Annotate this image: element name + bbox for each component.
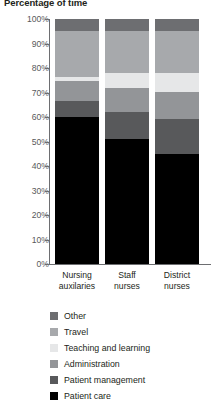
y-axis-tick-mark [45, 166, 50, 167]
plot-area: 100%90%80%70%60%50%40%30%20%10%0% Nursin… [0, 0, 216, 300]
bar-segment[interactable] [155, 119, 199, 153]
bar-segment[interactable] [105, 139, 149, 264]
legend-item-label: Patient care [64, 392, 111, 401]
y-axis-tick-mark [45, 68, 50, 69]
y-axis-tick-label: 10% [9, 235, 49, 244]
legend-swatch-icon [50, 328, 58, 336]
y-axis-tick-label: 20% [9, 211, 49, 220]
y-axis-tick-label: 90% [9, 39, 49, 48]
legend-swatch-icon [50, 360, 58, 368]
y-axis-tick-mark [45, 264, 50, 265]
bar-segment[interactable] [155, 19, 199, 31]
legend-item[interactable]: Administration [50, 356, 216, 372]
bar-segment[interactable] [155, 92, 199, 119]
legend-item[interactable]: Teaching and learning [50, 340, 216, 356]
legend-swatch-icon [50, 344, 58, 352]
legend-item[interactable]: Patient care [50, 388, 216, 404]
legend-swatch-icon [50, 376, 58, 384]
legend-swatch-icon [50, 312, 58, 320]
bar-stack [155, 19, 199, 264]
y-axis-tick-label: 80% [9, 64, 49, 73]
bar-segment[interactable] [105, 31, 149, 73]
bar-segment[interactable] [55, 19, 99, 31]
legend-item-label: Administration [64, 360, 120, 369]
legend-swatch-icon [50, 392, 58, 400]
y-axis-tick-mark [45, 215, 50, 216]
legend-item[interactable]: Other [50, 308, 216, 324]
bar-segment[interactable] [105, 73, 149, 88]
bar-column[interactable] [55, 19, 99, 264]
bar-segment[interactable] [155, 154, 199, 264]
bar-stack [55, 19, 99, 264]
bar-column[interactable] [105, 19, 149, 264]
legend-item-label: Teaching and learning [64, 344, 150, 353]
legend-item[interactable]: Travel [50, 324, 216, 340]
legend-item-label: Other [64, 312, 86, 321]
y-axis-tick-label: 50% [9, 137, 49, 146]
y-axis-tick-mark [45, 19, 50, 20]
bar-segment[interactable] [105, 112, 149, 139]
bar-segment[interactable] [55, 31, 99, 77]
legend-item-label: Travel [64, 328, 88, 337]
y-axis-tick-label: 60% [9, 113, 49, 122]
y-axis-tick-label: 40% [9, 162, 49, 171]
y-axis-tick-label: 70% [9, 88, 49, 97]
y-axis-tick-label: 100% [9, 15, 49, 24]
y-axis-tick-mark [45, 117, 50, 118]
bar-segment[interactable] [155, 31, 199, 73]
bar-segment[interactable] [55, 101, 99, 118]
x-axis-tick-label-line: District [145, 270, 209, 281]
x-axis-tick-label: Districtnurses [145, 270, 209, 291]
bar-segment[interactable] [55, 117, 99, 264]
bar-segment[interactable] [55, 81, 99, 100]
legend-item-label: Patient management [64, 376, 145, 385]
chart-legend: OtherTravelTeaching and learningAdminist… [50, 308, 216, 404]
y-axis-tick-mark [45, 240, 50, 241]
x-axis-tick-label-line: nurses [145, 281, 209, 292]
bar-segment[interactable] [105, 19, 149, 31]
bar-stack [105, 19, 149, 264]
y-axis-tick-mark [45, 142, 50, 143]
bar-segment[interactable] [155, 73, 199, 93]
y-axis-tick-mark [45, 93, 50, 94]
y-axis-tick-mark [45, 191, 50, 192]
bar-segment[interactable] [105, 88, 149, 113]
y-axis-tick-label: 0% [9, 260, 49, 269]
legend-item[interactable]: Patient management [50, 372, 216, 388]
x-axis-line [49, 264, 211, 265]
y-axis-tick-label: 30% [9, 186, 49, 195]
bar-column[interactable] [155, 19, 199, 264]
y-axis-tick-mark [45, 44, 50, 45]
